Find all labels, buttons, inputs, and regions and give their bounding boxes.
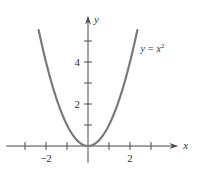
y-tick-label: 2 (75, 98, 81, 110)
annotation-main-text: y = x (139, 43, 161, 54)
curve-annotation: y = x2 (139, 42, 165, 54)
y-tick-labels: 24 (75, 56, 81, 110)
x-tick-label: −2 (40, 152, 52, 164)
x-tick-labels: −22 (40, 152, 133, 164)
y-axis-label: y (93, 13, 99, 25)
annotation-superscript: 2 (161, 42, 165, 50)
x-tick-label: 2 (127, 152, 133, 164)
x-axis-label: x (182, 139, 188, 151)
y-tick-label: 4 (75, 56, 81, 68)
chart: x y −22 24 y = x2 (0, 0, 200, 175)
